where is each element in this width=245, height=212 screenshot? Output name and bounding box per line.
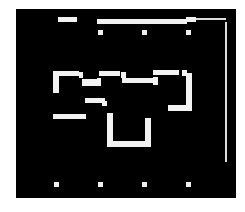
pellet-dot xyxy=(186,30,191,35)
wall-segment xyxy=(113,141,151,147)
wall-segment xyxy=(122,78,154,83)
wall-segment xyxy=(53,114,86,119)
wall-segment xyxy=(58,17,77,22)
wall-segment xyxy=(82,79,98,86)
wall-segment xyxy=(186,73,192,107)
wall-segment xyxy=(168,105,192,111)
wall-segment xyxy=(53,76,59,93)
wall-segment xyxy=(186,17,196,22)
pellet-dot xyxy=(98,30,103,35)
game-board xyxy=(16,9,236,198)
pellet-dot xyxy=(142,30,147,35)
wall-segment xyxy=(145,118,151,141)
pellet-dot xyxy=(98,182,103,187)
wall-segment xyxy=(99,71,120,76)
wall-segment xyxy=(79,72,83,78)
boundary-rail xyxy=(225,22,227,162)
wall-segment xyxy=(153,77,158,85)
pellet-dot xyxy=(54,182,59,187)
wall-segment xyxy=(97,19,187,24)
pellet-dot xyxy=(186,182,191,187)
wall-segment xyxy=(97,78,101,86)
pellet-dot xyxy=(142,182,147,187)
wall-segment xyxy=(153,70,179,75)
boundary-rail xyxy=(196,18,226,20)
wall-segment xyxy=(102,101,107,106)
